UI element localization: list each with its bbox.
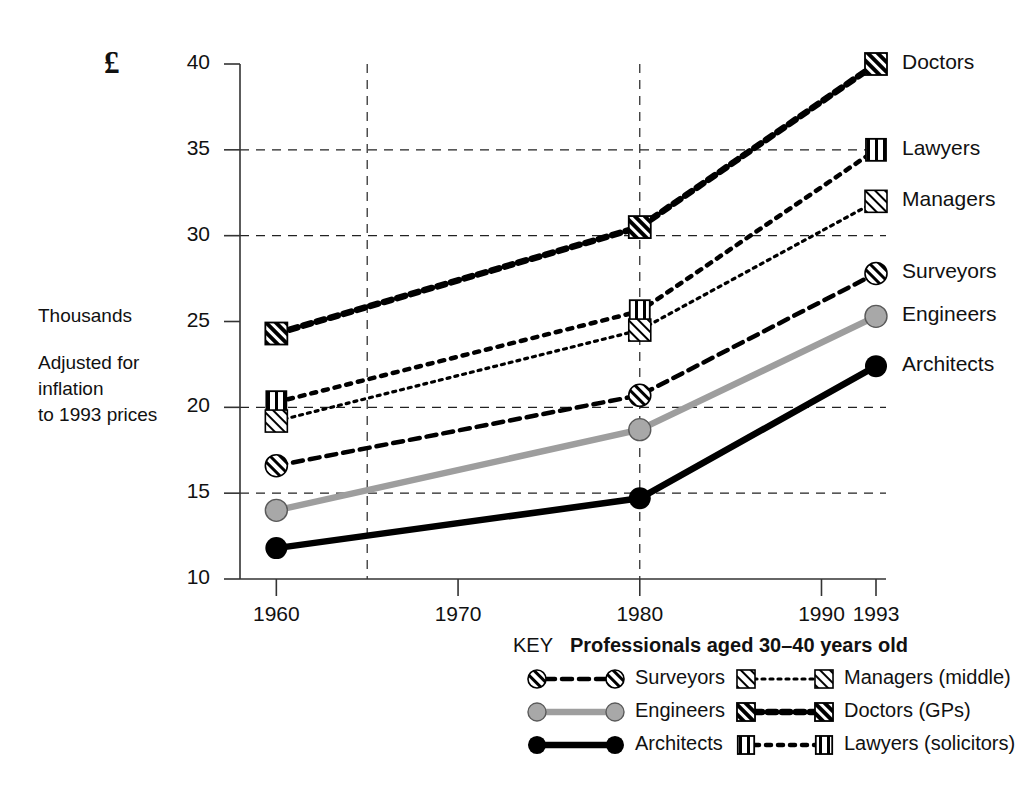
- series-label-lawyers: Lawyers: [902, 136, 980, 160]
- gridlines: [240, 64, 886, 579]
- series-label-doctors: Doctors: [902, 50, 974, 74]
- y-axis-tick-label: 10: [164, 565, 210, 589]
- side-note-adjusted: Adjusted for: [38, 352, 139, 374]
- key-word: KEY: [513, 634, 553, 657]
- y-axis-tick-label: 30: [164, 222, 210, 246]
- y-axis-tick-label: 40: [164, 50, 210, 74]
- series-label-architects: Architects: [902, 352, 994, 376]
- chart-figure: 1015202530354019601970198019901993Doctor…: [0, 0, 1035, 785]
- x-axis-tick-label: 1993: [848, 602, 904, 626]
- x-axis-tick-label: 1970: [430, 602, 486, 626]
- series-label-engineers: Engineers: [902, 302, 997, 326]
- key-entry-label: Surveyors: [635, 666, 725, 689]
- side-note-prices: to 1993 prices: [38, 404, 157, 426]
- side-note-thousands: Thousands: [38, 305, 132, 327]
- y-axis-tick-label: 35: [164, 136, 210, 160]
- currency-symbol: £: [104, 45, 120, 81]
- y-axis-tick-label: 25: [164, 308, 210, 332]
- key-entry-label: Doctors (GPs): [844, 699, 971, 722]
- x-axis-tick-label: 1990: [793, 602, 849, 626]
- axes: [224, 64, 886, 596]
- series-label-managers: Managers: [902, 187, 995, 211]
- x-axis-tick-label: 1960: [248, 602, 304, 626]
- key-entry-label: Lawyers (solicitors): [844, 732, 1015, 755]
- y-axis-tick-label: 20: [164, 393, 210, 417]
- key-title: Professionals aged 30–40 years old: [570, 634, 908, 657]
- key-entry-label: Managers (middle): [844, 666, 1011, 689]
- side-note-inflation: inflation: [38, 378, 104, 400]
- key-entry-label: Architects: [635, 732, 723, 755]
- key-entry-label: Engineers: [635, 699, 725, 722]
- x-axis-tick-label: 1980: [612, 602, 668, 626]
- y-axis-tick-label: 15: [164, 479, 210, 503]
- series-lines: [276, 64, 876, 548]
- series-label-surveyors: Surveyors: [902, 259, 997, 283]
